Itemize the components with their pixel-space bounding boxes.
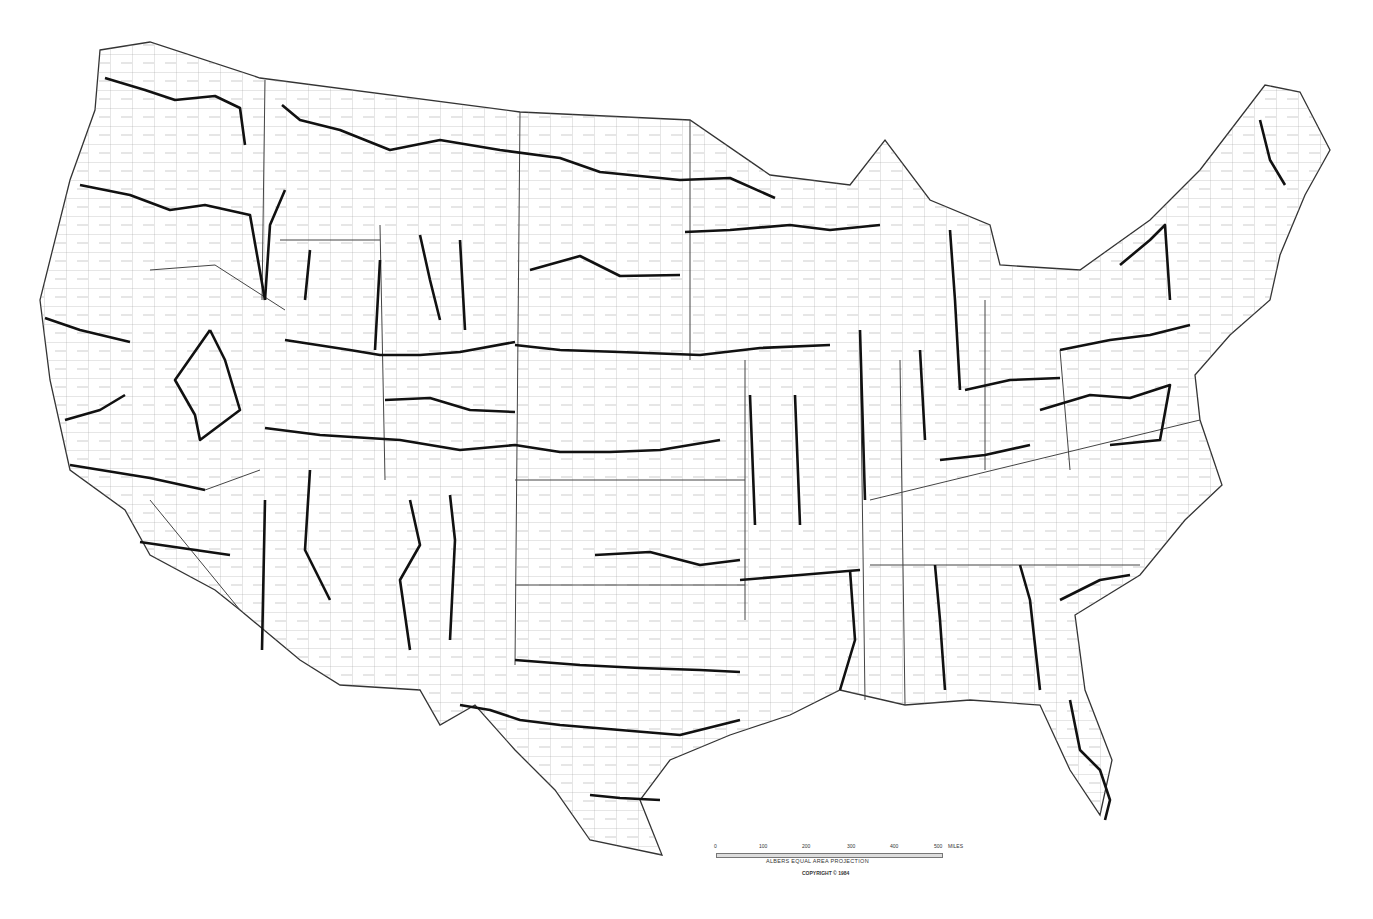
us-county-map	[0, 0, 1373, 919]
scale-tick: 200	[802, 843, 810, 849]
scale-tick: 400	[890, 843, 898, 849]
scale-units: MILES	[948, 843, 963, 849]
scale-tick: 0	[714, 843, 717, 849]
scale-tick: 300	[847, 843, 855, 849]
county-grid	[0, 0, 1373, 919]
scale-tick: 100	[759, 843, 767, 849]
copyright-label: COPYRIGHT © 1984	[802, 870, 849, 876]
scale-tick: 500	[934, 843, 942, 849]
scale-ticks: 0 100 200 300 400 500	[712, 843, 972, 853]
scale-bar: 0 100 200 300 400 500 MILES ALBERS EQUAL…	[712, 843, 972, 853]
projection-label: ALBERS EQUAL AREA PROJECTION	[766, 858, 869, 864]
